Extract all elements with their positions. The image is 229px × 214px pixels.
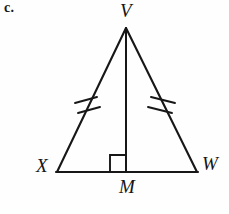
vertex-label-m: M (119, 177, 135, 196)
segment-vx (57, 28, 126, 172)
vertex-label-w: W (202, 154, 218, 173)
vertex-label-x: X (36, 156, 48, 175)
vertex-label-v: V (120, 1, 132, 20)
triangle-diagram (0, 0, 229, 214)
right-angle-marker (110, 155, 126, 172)
tick-marks-left-leg (75, 97, 100, 113)
tick-marks-right-leg (148, 97, 175, 113)
geometry-figure: c. V X W M (0, 0, 229, 214)
